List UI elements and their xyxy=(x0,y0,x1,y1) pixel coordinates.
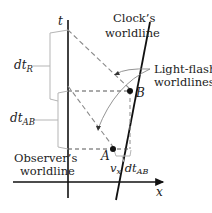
observer-worldline-label-1: Observer’s xyxy=(14,151,77,165)
dt-R-bracket xyxy=(50,30,68,101)
event-B-label: B xyxy=(135,86,145,100)
light-flash-label-1: Light-flash xyxy=(154,62,212,76)
t-axis-label: t xyxy=(58,14,63,28)
dt-AB-bracket xyxy=(58,91,68,149)
vx-dt-bracket xyxy=(114,150,131,156)
event-A-label: A xyxy=(100,149,110,163)
vx-dt-AB-label: vx dtAB xyxy=(110,161,148,176)
dt-AB-label: dtAB xyxy=(10,111,35,127)
event-B xyxy=(127,88,133,94)
clock-worldline-label-1: Clock’s xyxy=(113,11,155,25)
light-flash-lower xyxy=(68,86,114,148)
dt-R-label: dtR xyxy=(14,58,34,74)
event-A xyxy=(110,146,116,152)
clock-worldline-label-2: worldline xyxy=(105,26,160,40)
observer-worldline-label-2: worldline xyxy=(20,164,75,178)
x-axis-label: x xyxy=(156,185,163,199)
light-flash-label-2: worldlines xyxy=(154,75,212,89)
spacetime-diagram: t x Clock’s worldline Light-flash worldl… xyxy=(0,0,212,213)
